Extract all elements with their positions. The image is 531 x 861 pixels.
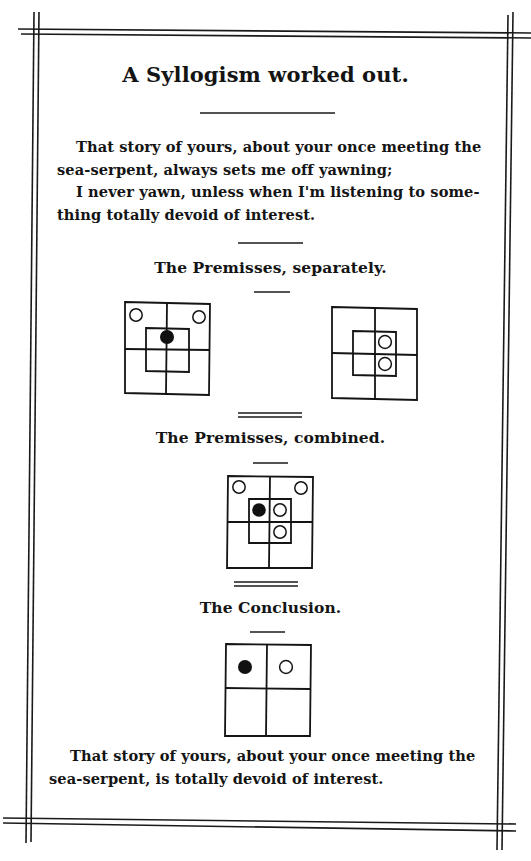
empty-marker-icon bbox=[379, 358, 392, 371]
section-heading-separately: The Premisses, separately. bbox=[0, 258, 531, 277]
conclusion-diagram bbox=[221, 640, 317, 742]
section-heading-conclusion: The Conclusion. bbox=[0, 598, 531, 617]
empty-marker-icon bbox=[130, 309, 142, 321]
empty-marker-icon bbox=[233, 481, 245, 493]
combined-diagram bbox=[223, 472, 319, 574]
premiss-line: I never yawn, unless when I'm listening … bbox=[76, 181, 480, 204]
empty-marker-icon bbox=[193, 311, 205, 323]
vertical-divider bbox=[266, 644, 267, 736]
frame-bottom-rule-inner bbox=[3, 823, 516, 831]
premiss-line: sea-serpent, always sets me off yawning; bbox=[57, 159, 393, 182]
premiss-1-diagram bbox=[120, 298, 216, 400]
empty-marker-icon bbox=[280, 661, 293, 674]
section-heading-combined: The Premisses, combined. bbox=[0, 428, 531, 447]
conclusion-line: sea-serpent, is totally devoid of intere… bbox=[49, 768, 383, 791]
filled-marker-icon bbox=[160, 330, 174, 344]
frame-top-rule-outer bbox=[18, 29, 531, 33]
horizontal-divider bbox=[332, 353, 417, 355]
outer-square bbox=[225, 644, 311, 736]
horizontal-divider bbox=[125, 349, 210, 350]
empty-marker-icon bbox=[274, 526, 286, 538]
frame-top-rule-inner bbox=[21, 34, 531, 38]
frame-bottom-rule-outer bbox=[3, 818, 516, 824]
empty-marker-icon bbox=[274, 504, 286, 516]
filled-marker-icon bbox=[252, 503, 266, 517]
premiss-line: thing totally devoid of interest. bbox=[57, 204, 315, 227]
empty-marker-icon bbox=[379, 336, 392, 349]
filled-marker-icon bbox=[238, 660, 252, 674]
page-title: A Syllogism worked out. bbox=[0, 62, 531, 87]
premiss-line: That story of yours, about your once mee… bbox=[76, 136, 481, 159]
conclusion-line: That story of yours, about your once mee… bbox=[70, 745, 475, 768]
vertical-divider bbox=[166, 303, 167, 394]
horizontal-divider bbox=[225, 688, 310, 689]
empty-marker-icon bbox=[295, 482, 307, 494]
premiss-2-diagram bbox=[328, 303, 424, 405]
